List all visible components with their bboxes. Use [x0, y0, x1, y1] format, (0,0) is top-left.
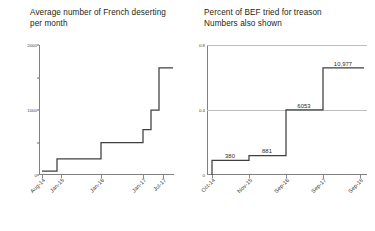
data-label-10977: 10,977	[334, 61, 352, 67]
x-tick-label-aug-14: Aug-14	[29, 177, 46, 194]
x-tick-label-sep-17: Sep-17	[310, 177, 327, 194]
x-tick-label-nov-15: Nov-15	[236, 177, 253, 194]
x-tick-label-sep-16: Sep-16	[273, 177, 290, 194]
data-label-6053: 6053	[297, 103, 310, 109]
plot-area-left: 2000 1000 0 Aug-14 Jan-15 Jan-16 Jan-17 …	[39, 45, 174, 175]
x-tick-label-jan-17: Jan-17	[131, 177, 148, 194]
y-tick-label-1000: 1000	[27, 108, 39, 113]
x-tick-label-jan-15: Jan-15	[49, 177, 66, 194]
x-tick-label-sep-18: Sep-18	[347, 177, 364, 194]
chart-panel-french-desertions: Average number of French deserting per m…	[0, 0, 190, 231]
plot-area-right: 0.8 0.4 0 Oct-14 Nov-15 Sep-16 Sep-17 Se…	[207, 45, 367, 175]
y-tick-label-0-8: 0.8	[199, 43, 207, 48]
x-tick-label-jul-17: Jul-17	[152, 177, 167, 192]
x-tick-label-jan-16: Jan-16	[89, 177, 106, 194]
data-label-881: 881	[262, 148, 272, 154]
figure-two-step-charts: Average number of French deserting per m…	[0, 0, 375, 231]
data-label-380: 380	[225, 153, 235, 159]
chart-panel-bef-treason: Percent of BEF tried for treason Numbers…	[185, 0, 375, 231]
chart-title-right: Percent of BEF tried for treason Numbers…	[204, 8, 375, 29]
step-line-french-desertions	[39, 45, 174, 175]
y-tick-label-2000: 2000	[27, 43, 39, 48]
y-tick-label-0-4: 0.4	[199, 108, 207, 113]
chart-title-left: Average number of French deserting per m…	[30, 8, 190, 29]
x-tick-label-oct-14: Oct-14	[200, 177, 216, 193]
